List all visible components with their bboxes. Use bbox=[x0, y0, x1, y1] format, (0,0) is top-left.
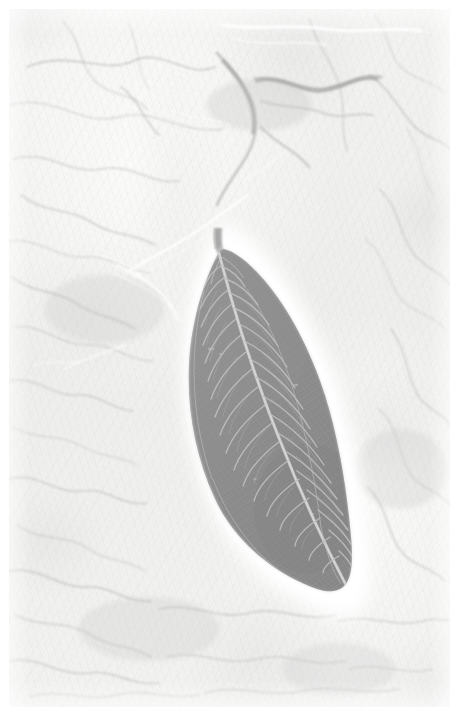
photo-frame: pressed skeleton leaf handmade mulberry … bbox=[0, 0, 459, 716]
photograph bbox=[9, 9, 450, 707]
leaf-layer bbox=[9, 9, 450, 707]
